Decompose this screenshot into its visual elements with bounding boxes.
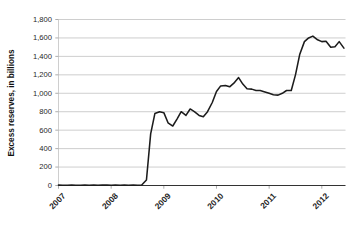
y-axis-title: Excess reserves, in billions [7, 49, 16, 156]
y-tick-label: 1,000 [33, 89, 52, 98]
y-tick-label: 400 [39, 144, 52, 153]
y-tick-label: 1,600 [33, 33, 52, 42]
line-chart: 02004006008001,0001,2001,4001,6001,800 2… [0, 0, 362, 233]
y-tick-label: 1,400 [33, 52, 52, 61]
y-tick-label: 600 [39, 126, 52, 135]
y-tick-label: 800 [39, 107, 52, 116]
y-tick-label: 0 [48, 181, 52, 190]
y-tick-label: 1,200 [33, 70, 52, 79]
chart-figure: 02004006008001,0001,2001,4001,6001,800 2… [0, 0, 362, 233]
y-tick-label: 1,800 [33, 15, 52, 24]
y-tick-label: 200 [39, 162, 52, 171]
